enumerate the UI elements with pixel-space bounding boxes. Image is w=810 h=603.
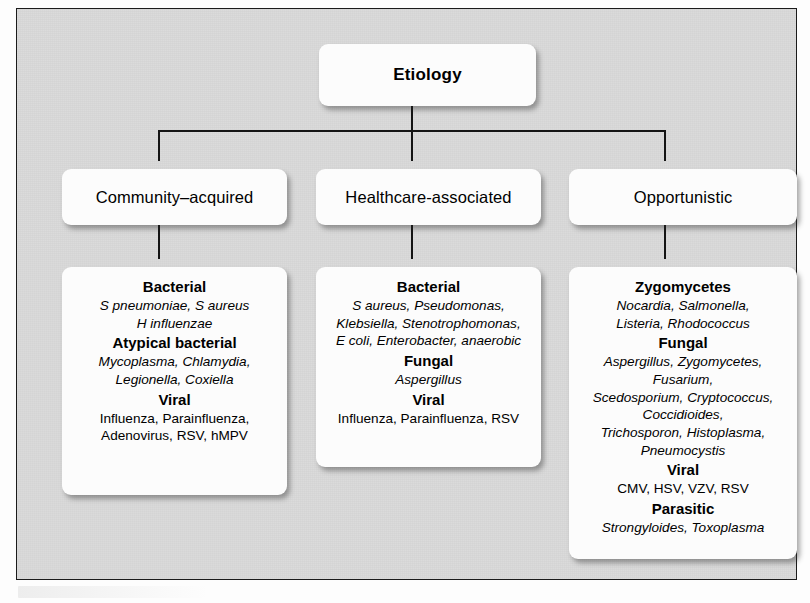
node-opportunistic[interactable]: Opportunistic — [569, 169, 797, 225]
detail-group-item: CMV, HSV, VZV, RSV — [577, 480, 789, 498]
node-etiology-label: Etiology — [393, 65, 462, 85]
detail-group-heading: Viral — [324, 390, 533, 410]
detail-box-opportunistic[interactable]: ZygomycetesNocardia, Salmonella,Listeria… — [569, 267, 797, 559]
detail-group: BacterialS aureus, Pseudomonas,Klebsiell… — [324, 276, 533, 350]
detail-group-heading: Bacterial — [70, 277, 279, 297]
node-etiology[interactable]: Etiology — [319, 44, 536, 106]
detail-group-item: S aureus, Pseudomonas, — [324, 297, 533, 315]
node-community-acquired-label: Community–acquired — [96, 188, 254, 207]
detail-group-item: Aspergillus — [324, 371, 533, 389]
detail-group-item: Coccidioides, — [577, 406, 789, 424]
detail-group-item: Pneumocystis — [577, 442, 789, 460]
detail-group-item: Aspergillus, Zygomycetes, — [577, 353, 789, 371]
detail-group-heading: Parasitic — [577, 499, 789, 519]
detail-group-item: Nocardia, Salmonella, — [577, 297, 789, 315]
cut-off-caption-sliver — [18, 586, 208, 598]
detail-group-item: E coli, Enterobacter, anaerobic — [324, 332, 533, 350]
node-healthcare-associated[interactable]: Healthcare-associated — [316, 169, 541, 225]
node-healthcare-associated-label: Healthcare-associated — [345, 188, 511, 207]
detail-group: FungalAspergillus — [324, 350, 533, 389]
detail-group-item: Klebsiella, Stenotrophomonas, — [324, 315, 533, 333]
detail-group-item: S pneumoniae, S aureus — [70, 297, 279, 315]
detail-group-item: Trichosporon, Histoplasma, — [577, 424, 789, 442]
detail-group: ZygomycetesNocardia, Salmonella,Listeria… — [577, 276, 789, 332]
scanned-figure-page: Etiology Community–acquired Healthcare-a… — [0, 0, 810, 603]
detail-group-item: Influenza, Parainfluenza, RSV — [324, 410, 533, 428]
detail-group-item: Scedosporium, Cryptococcus, — [577, 389, 789, 407]
detail-group-heading: Fungal — [577, 333, 789, 353]
detail-group-item: Fusarium, — [577, 371, 789, 389]
detail-group: ViralCMV, HSV, VZV, RSV — [577, 459, 789, 498]
connector-bus-to-category-1 — [411, 130, 413, 161]
detail-group-item: Listeria, Rhodococcus — [577, 315, 789, 333]
detail-group-item: Influenza, Parainfluenza, — [70, 410, 279, 428]
detail-group-heading: Viral — [70, 390, 279, 410]
detail-group: FungalAspergillus, Zygomycetes,Fusarium,… — [577, 332, 789, 459]
detail-group: BacterialS pneumoniae, S aureusH influen… — [70, 276, 279, 332]
detail-group-item: Adenovirus, RSV, hMPV — [70, 427, 279, 445]
detail-group-heading: Fungal — [324, 351, 533, 371]
connector-bus-to-category-0 — [158, 130, 160, 161]
detail-group: Atypical bacterialMycoplasma, Chlamydia,… — [70, 332, 279, 388]
detail-box-healthcare-associated[interactable]: BacterialS aureus, Pseudomonas,Klebsiell… — [316, 267, 541, 467]
detail-group-heading: Atypical bacterial — [70, 333, 279, 353]
detail-group: ViralInfluenza, Parainfluenza,Adenovirus… — [70, 389, 279, 445]
node-opportunistic-label: Opportunistic — [634, 188, 733, 207]
detail-group-heading: Zygomycetes — [577, 277, 789, 297]
detail-group-item: H influenzae — [70, 315, 279, 333]
detail-group: ParasiticStrongyloides, Toxoplasma — [577, 498, 789, 537]
detail-group-item: Legionella, Coxiella — [70, 371, 279, 389]
detail-group-item: Mycoplasma, Chlamydia, — [70, 353, 279, 371]
detail-group-heading: Bacterial — [324, 277, 533, 297]
detail-group-item: Strongyloides, Toxoplasma — [577, 519, 789, 537]
detail-group-heading: Viral — [577, 460, 789, 480]
detail-group: ViralInfluenza, Parainfluenza, RSV — [324, 389, 533, 428]
figure-frame: Etiology Community–acquired Healthcare-a… — [16, 8, 797, 580]
node-community-acquired[interactable]: Community–acquired — [62, 169, 287, 225]
connector-bus-to-category-2 — [664, 130, 666, 161]
detail-box-community-acquired[interactable]: BacterialS pneumoniae, S aureusH influen… — [62, 267, 287, 495]
